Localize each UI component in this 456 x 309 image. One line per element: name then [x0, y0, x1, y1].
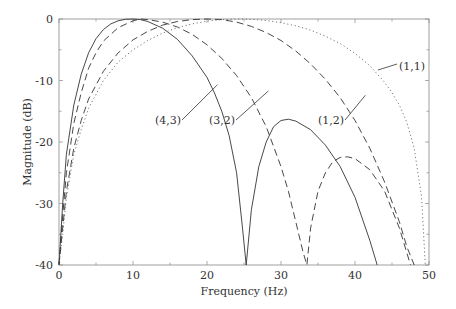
magnitude-response-chart: 0 -10 -20 -30 -40 0 10 20 30 40 50 Frequ…: [0, 0, 456, 309]
annotation-label-4-3: (4,3): [155, 114, 181, 127]
y-tick-label: -40: [35, 259, 53, 272]
curve-4-3: [59, 19, 377, 265]
curve-group: [59, 19, 425, 265]
annotation-label-3-2: (3,2): [209, 114, 235, 127]
y-axis-label: Magnitude (dB): [21, 98, 34, 186]
plot-area-frame: [59, 19, 429, 265]
x-tick-label: 40: [348, 269, 362, 282]
axis-ticks: [59, 19, 429, 265]
x-tick-label: 0: [56, 269, 63, 282]
x-axis-label: Frequency (Hz): [201, 285, 288, 298]
annotation-label-1-2: (1,2): [318, 114, 344, 127]
y-tick-label: -30: [35, 198, 53, 211]
curve-1-2: [59, 19, 414, 265]
curve-3-2: [59, 19, 411, 265]
x-tick-label: 10: [126, 269, 140, 282]
y-tick-label: 0: [46, 13, 53, 26]
y-tick-label: -20: [35, 136, 53, 149]
x-tick-label: 50: [422, 269, 436, 282]
x-tick-label: 30: [274, 269, 288, 282]
x-tick-label: 20: [200, 269, 214, 282]
annotation-label-1-1: (1,1): [399, 60, 425, 73]
y-tick-label: -10: [35, 75, 53, 88]
